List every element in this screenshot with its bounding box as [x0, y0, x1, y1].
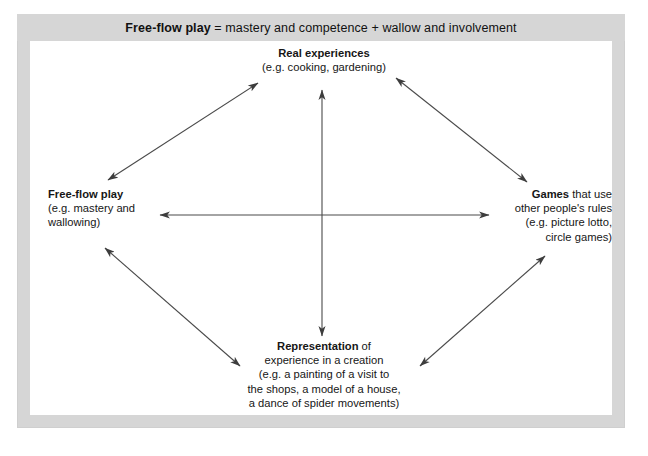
figure-container: Free-flow play = mastery and competence … — [0, 0, 648, 456]
node-representation-line-4: the shops, a model of a house, — [206, 382, 442, 396]
node-representation-line-2: experience in a creation — [206, 353, 442, 367]
node-real-experiences-line-1: Real experiences — [234, 46, 414, 60]
node-games-line-3: (e.g. picture lotto, — [490, 215, 612, 229]
node-real-experiences-line-2: (e.g. cooking, gardening) — [234, 60, 414, 74]
node-free-flow-play-line-2: (e.g. mastery and — [48, 201, 178, 215]
node-representation: Representation of experience in a creati… — [206, 339, 442, 410]
figure-header-text: Free-flow play = mastery and competence … — [125, 21, 516, 35]
node-games-line-1: Games that use — [490, 187, 612, 201]
header-rest: = mastery and competence + wallow and in… — [211, 21, 517, 35]
node-games: Games that use other people's rules (e.g… — [490, 187, 612, 244]
node-representation-line-1: Representation of — [206, 339, 442, 353]
figure-header-band: Free-flow play = mastery and competence … — [17, 14, 625, 41]
node-representation-line-5: a dance of spider movements) — [206, 396, 442, 410]
node-representation-line-3: (e.g. a painting of a visit to — [206, 367, 442, 381]
node-real-experiences: Real experiences (e.g. cooking, gardenin… — [234, 46, 414, 74]
header-bold-lead: Free-flow play — [125, 21, 210, 35]
node-free-flow-play-line-1: Free-flow play — [48, 187, 178, 201]
node-games-line-2: other people's rules — [490, 201, 612, 215]
node-free-flow-play-line-3: wallowing) — [48, 215, 178, 229]
node-games-line-4: circle games) — [490, 230, 612, 244]
node-free-flow-play: Free-flow play (e.g. mastery and wallowi… — [48, 187, 178, 230]
